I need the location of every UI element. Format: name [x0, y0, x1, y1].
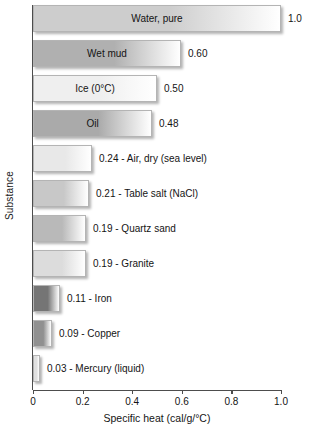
specific-heat-bar-chart: Substance Water, pure1.0Wet mud0.60Ice (… [0, 0, 315, 433]
bar-row: 0.24 - Air, dry (sea level) [33, 145, 281, 172]
bar-value-label: 0.50 [164, 75, 183, 102]
bar-value-label: 0.09 - Copper [59, 320, 120, 347]
x-tick-mark [231, 390, 232, 394]
x-tick-mark [132, 390, 133, 394]
bar-row: 0.09 - Copper [33, 320, 281, 347]
bar-value-label: 1.0 [288, 5, 302, 32]
bar-row: Wet mud0.60 [33, 40, 281, 67]
bar-value-label: 0.21 - Table salt (NaCl) [96, 180, 198, 207]
x-tick-label: 0.4 [117, 396, 147, 407]
x-axis-line [33, 390, 281, 391]
x-tick-label: 0 [18, 396, 48, 407]
bar-quartz-sand[interactable] [33, 215, 86, 242]
bar-row: 0.03 - Mercury (liquid) [33, 355, 281, 382]
x-tick-label: 0.6 [167, 396, 197, 407]
bar-granite[interactable] [33, 250, 86, 277]
x-tick-label: 0.8 [216, 396, 246, 407]
x-tick-mark [281, 390, 282, 394]
bar-mercury-liquid[interactable] [33, 355, 40, 382]
bar-value-label: 0.60 [188, 40, 207, 67]
bar-value-label: 0.11 - Iron [67, 285, 112, 312]
x-tick-mark [182, 390, 183, 394]
bar-row: 0.11 - Iron [33, 285, 281, 312]
y-axis-title-text: Substance [5, 170, 16, 219]
bar-value-label: 0.19 - Granite [93, 250, 154, 277]
bar-copper[interactable] [33, 320, 52, 347]
bar-row: Ice (0°C)0.50 [33, 75, 281, 102]
bar-air-dry-sea-level[interactable] [33, 145, 92, 172]
bar-row: 0.19 - Granite [33, 250, 281, 277]
x-tick-label: 1.0 [266, 396, 296, 407]
bar-row: 0.21 - Table salt (NaCl) [33, 180, 281, 207]
bar-value-label: 0.24 - Air, dry (sea level) [99, 145, 207, 172]
bar-row: Oil0.48 [33, 110, 281, 137]
bar-row: Water, pure1.0 [33, 5, 281, 32]
bar-row: 0.19 - Quartz sand [33, 215, 281, 242]
bar-value-label: 0.48 [159, 110, 178, 137]
x-axis-title: Specific heat (cal/g/°C) [33, 412, 281, 424]
bar-ice-0-c[interactable] [33, 75, 157, 102]
x-tick-label: 0.2 [68, 396, 98, 407]
bar-value-label: 0.03 - Mercury (liquid) [47, 355, 144, 382]
bar-wet-mud[interactable] [33, 40, 181, 67]
bar-water-pure[interactable] [33, 5, 281, 32]
x-tick-mark [33, 390, 34, 394]
bar-table-salt-nacl[interactable] [33, 180, 89, 207]
bar-value-label: 0.19 - Quartz sand [93, 215, 176, 242]
bar-oil[interactable] [33, 110, 152, 137]
y-axis-title: Substance [2, 0, 18, 390]
x-tick-mark [83, 390, 84, 394]
bar-iron[interactable] [33, 285, 60, 312]
